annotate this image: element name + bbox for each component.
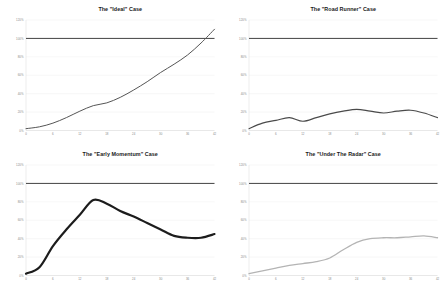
x-axis-tick-label: 12 (301, 132, 305, 136)
y-axis-tick-label: 40% (240, 236, 246, 240)
y-axis-tick-label: 100% (16, 181, 24, 185)
x-axis-tick-label: 18 (105, 277, 109, 281)
chart-panel-ideal: 0%20%40%60%80%100%120%06121824303642The … (0, 0, 223, 145)
x-axis-tick-label: 12 (301, 277, 305, 281)
y-axis-tick-label: 60% (18, 73, 24, 77)
x-axis-tick-label: 36 (408, 132, 412, 136)
x-axis-tick-label: 6 (275, 132, 277, 136)
x-axis-tick-label: 42 (435, 277, 439, 281)
x-axis-tick-label: 30 (159, 277, 163, 281)
y-axis-tick-label: 100% (16, 37, 24, 41)
y-axis-tick-label: 60% (240, 73, 246, 77)
y-axis-tick-label: 0% (242, 273, 247, 277)
x-axis-tick-label: 42 (213, 132, 217, 136)
y-axis-tick-label: 0% (19, 273, 24, 277)
y-axis-tick-label: 40% (18, 92, 24, 96)
y-axis-tick-label: 40% (240, 92, 246, 96)
x-axis-tick-label: 0 (25, 277, 27, 281)
y-axis-tick-label: 80% (240, 55, 246, 59)
x-axis-tick-label: 12 (78, 277, 82, 281)
series-line-under-the-radar (249, 235, 438, 273)
y-axis-tick-label: 60% (240, 218, 246, 222)
chart-grid: 0%20%40%60%80%100%120%06121824303642The … (0, 0, 445, 289)
y-axis-tick-label: 0% (242, 129, 247, 133)
x-axis-tick-label: 24 (132, 277, 136, 281)
x-axis-tick-label: 6 (275, 277, 277, 281)
y-axis-tick-label: 120% (239, 18, 247, 22)
x-axis-tick-label: 24 (355, 132, 359, 136)
series-line-ideal (26, 29, 215, 128)
x-axis-tick-label: 30 (382, 277, 386, 281)
x-axis-tick-label: 6 (52, 132, 54, 136)
y-axis-tick-label: 100% (239, 181, 247, 185)
x-axis-tick-label: 42 (213, 277, 217, 281)
x-axis-tick-label: 0 (25, 132, 27, 136)
y-axis-tick-label: 120% (239, 163, 247, 167)
x-axis-tick-label: 24 (355, 277, 359, 281)
y-axis-tick-label: 20% (240, 110, 246, 114)
x-axis-tick-label: 36 (408, 277, 412, 281)
y-axis-tick-label: 40% (18, 236, 24, 240)
x-axis-tick-label: 36 (186, 132, 190, 136)
chart-title: The "Road Runner" Case (310, 6, 376, 12)
y-axis-tick-label: 20% (18, 255, 24, 259)
chart-title: The "Under The Radar" Case (305, 150, 380, 156)
x-axis-tick-label: 18 (328, 277, 332, 281)
chart-title: The "Ideal" Case (98, 6, 142, 12)
y-axis-tick-label: 80% (240, 199, 246, 203)
x-axis-tick-label: 6 (52, 277, 54, 281)
y-axis-tick-label: 80% (18, 199, 24, 203)
y-axis-tick-label: 100% (239, 37, 247, 41)
x-axis-tick-label: 30 (382, 132, 386, 136)
y-axis-tick-label: 80% (18, 55, 24, 59)
x-axis-tick-label: 30 (159, 132, 163, 136)
x-axis-tick-label: 36 (186, 277, 190, 281)
series-line-early-momentum (26, 199, 215, 273)
chart-title: The "Early Momentum" Case (83, 150, 158, 156)
y-axis-tick-label: 60% (18, 218, 24, 222)
y-axis-tick-label: 20% (240, 255, 246, 259)
x-axis-tick-label: 18 (105, 132, 109, 136)
x-axis-tick-label: 12 (78, 132, 82, 136)
chart-panel-under-the-radar: 0%20%40%60%80%100%120%06121824303642The … (223, 145, 445, 289)
y-axis-tick-label: 120% (16, 18, 24, 22)
y-axis-tick-label: 120% (16, 163, 24, 167)
x-axis-tick-label: 24 (132, 132, 136, 136)
x-axis-tick-label: 42 (435, 132, 439, 136)
x-axis-tick-label: 0 (248, 277, 250, 281)
chart-panel-early-momentum: 0%20%40%60%80%100%120%06121824303642The … (0, 145, 223, 289)
y-axis-tick-label: 20% (18, 110, 24, 114)
y-axis-tick-label: 0% (19, 129, 24, 133)
chart-panel-road-runner: 0%20%40%60%80%100%120%06121824303642The … (223, 0, 445, 145)
x-axis-tick-label: 0 (248, 132, 250, 136)
x-axis-tick-label: 18 (328, 132, 332, 136)
